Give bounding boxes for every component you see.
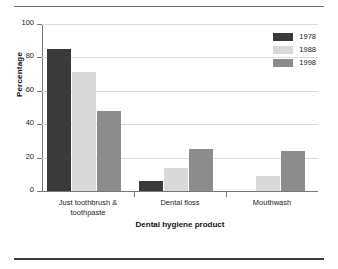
bar-group: Dental floss: [134, 24, 226, 191]
x-tick-mark: [226, 192, 227, 197]
legend-label: 1978: [299, 32, 316, 41]
y-tick-label: 20: [26, 152, 34, 161]
bottom-rule: [14, 258, 324, 260]
legend-label: 1988: [299, 45, 316, 54]
bar-1988-2: [256, 176, 280, 191]
y-tick-label: 0: [30, 185, 34, 194]
legend-swatch: [273, 33, 293, 41]
bar-1998-1: [189, 149, 213, 191]
y-tick: 0: [42, 191, 43, 192]
bar-1978-0: [47, 49, 71, 191]
y-axis-title: Percentage: [15, 30, 24, 120]
x-tick-label: Mouthwash: [224, 198, 320, 208]
figure: Percentage 020406080100Just toothbrush &…: [0, 0, 338, 269]
legend-item-1978: 1978: [273, 32, 316, 41]
y-tick-label: 80: [26, 51, 34, 60]
y-tick-label: 100: [21, 18, 34, 27]
legend-label: 1998: [299, 58, 316, 67]
bar-1988-0: [72, 72, 96, 191]
y-tick-label: 60: [26, 85, 34, 94]
x-tick-label: Just toothbrush & toothpaste: [40, 198, 136, 218]
x-tick-mark: [134, 192, 135, 197]
bar-chart: Percentage 020406080100Just toothbrush &…: [0, 14, 338, 246]
y-tick-mark: [37, 191, 42, 192]
bar-1998-2: [281, 151, 305, 191]
x-tick-label: Dental floss: [132, 198, 228, 208]
top-rule: [14, 6, 324, 7]
x-axis-line: [42, 191, 318, 192]
legend-swatch: [273, 59, 293, 67]
y-tick-label: 40: [26, 118, 34, 127]
legend: 197819881998: [273, 32, 316, 67]
bar-1978-1: [139, 181, 163, 191]
legend-item-1998: 1998: [273, 58, 316, 67]
bar-1998-0: [97, 111, 121, 191]
legend-swatch: [273, 46, 293, 54]
x-axis-title: Dental hygiene product: [42, 220, 318, 229]
legend-item-1988: 1988: [273, 45, 316, 54]
bar-1988-1: [164, 168, 188, 191]
bar-group: Just toothbrush & toothpaste: [42, 24, 134, 191]
